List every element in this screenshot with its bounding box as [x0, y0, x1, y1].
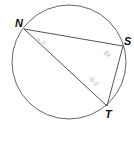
point-label-s: S	[124, 35, 132, 47]
circle	[12, 5, 126, 119]
angle-label-n: a-2	[34, 35, 46, 47]
circle-diagram: N S T a-2 8x 6-y	[0, 0, 134, 147]
angle-label-s: 8x	[103, 49, 113, 59]
point-label-n: N	[15, 17, 24, 29]
point-label-t: T	[105, 108, 113, 120]
angle-label-t: 6-y	[88, 75, 101, 88]
